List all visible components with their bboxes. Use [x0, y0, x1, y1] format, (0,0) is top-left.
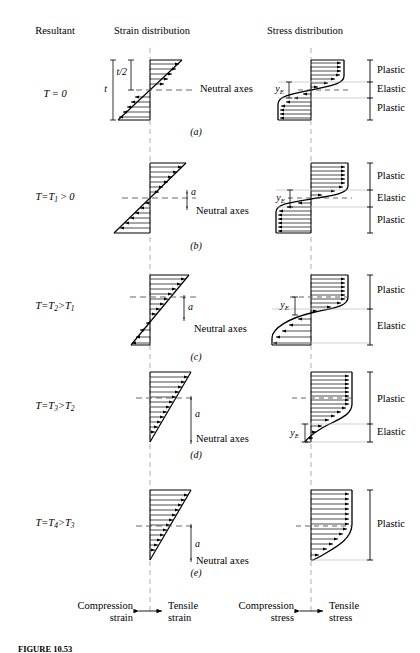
dimension-yE-label-d: yE: [289, 427, 299, 439]
dimension-yE-b: yE: [275, 190, 293, 207]
band-label-plastic-b-bottom: Plastic: [377, 214, 405, 225]
row-c: T=T2>T1 a Neutral axes: [35, 275, 406, 363]
legend-compression-strain-line1: Compression: [78, 600, 134, 611]
resultant-label-b: T=T1 > 0: [35, 191, 75, 203]
neutral-axes-label-e: Neutral axes: [196, 555, 249, 566]
band-label-elastic-b: Elastic: [377, 192, 406, 203]
dimension-yE-d: yE: [289, 424, 308, 442]
resultant-label-c: T=T2>T1: [35, 300, 74, 312]
band-brackets-c: [367, 275, 373, 345]
strain-diagram-e: [150, 490, 191, 560]
neutral-axes-label-d: Neutral axes: [196, 433, 249, 444]
band-label-plastic-d: Plastic: [377, 393, 405, 404]
legend-compression-strain-line2: strain: [110, 612, 134, 623]
legend-tensile-stress-line1: Tensile: [329, 600, 360, 611]
dimension-a-label-d: a: [195, 408, 200, 419]
strain-diagram-d: [150, 372, 191, 442]
dimension-a-label-e: a: [195, 538, 200, 549]
band-label-plastic-a-top: Plastic: [377, 64, 405, 75]
resultant-label-d: T=T3>T2: [35, 400, 74, 412]
legend-tensile-strain-line2: strain: [168, 612, 192, 623]
dimension-yE-a: yE: [274, 82, 292, 98]
row-d: T=T3>T2 a Neutral axes: [35, 372, 406, 461]
band-brackets-a: [367, 60, 373, 120]
dimension-t-half-label: t/2: [116, 66, 127, 77]
legend-compression-stress-line2: stress: [271, 612, 294, 623]
neutral-axes-label-b: Neutral axes: [196, 205, 249, 216]
dimension-yE-label-a: yE: [274, 83, 284, 95]
dimension-yE-label-c: yE: [279, 299, 289, 311]
band-label-plastic-e: Plastic: [377, 518, 405, 529]
column-header-stress: Stress distribution: [267, 25, 344, 36]
neutral-axes-label-a: Neutral axes: [200, 83, 253, 94]
figure-caption: FIGURE 10.53: [18, 644, 72, 653]
sub-caption-c: (c): [190, 351, 202, 363]
row-e: T=T4>T3 a Neutral axes: [35, 490, 405, 579]
figure-10-53: Resultant Strain distribution Stress dis…: [0, 0, 420, 653]
row-a: T = 0 t t/2: [43, 60, 406, 138]
legend: Compression strain Tensile strain Compre…: [78, 600, 360, 623]
sub-caption-d: (d): [190, 449, 202, 461]
column-header-resultant: Resultant: [35, 25, 75, 36]
sub-caption-b: (b): [190, 240, 202, 252]
stress-diagram-e: [311, 490, 352, 560]
dimension-a-b: a: [187, 186, 196, 208]
column-header-strain: Strain distribution: [114, 25, 191, 36]
resultant-label-a: T = 0: [43, 88, 67, 99]
band-label-elastic-d: Elastic: [377, 426, 406, 437]
band-label-elastic-a: Elastic: [377, 83, 406, 94]
sub-caption-e: (e): [190, 567, 202, 579]
sub-caption-a: (a): [190, 126, 202, 138]
legend-tensile-strain-line1: Tensile: [168, 600, 199, 611]
neutral-axes-label-c: Neutral axes: [194, 323, 247, 334]
band-brackets-e: [367, 490, 373, 560]
dimension-t-half: t/2: [116, 60, 134, 90]
legend-compression-stress-line1: Compression: [239, 600, 295, 611]
dimension-a-label-c: a: [188, 301, 193, 312]
stress-diagram-d: [305, 372, 352, 442]
band-brackets-b: [367, 163, 373, 233]
dimension-a-label-b: a: [191, 186, 196, 197]
band-label-plastic-c: Plastic: [377, 284, 405, 295]
legend-tensile-stress-line2: stress: [329, 612, 352, 623]
band-label-plastic-a-bottom: Plastic: [377, 102, 405, 113]
dimension-yE-c: yE: [279, 297, 298, 315]
resultant-label-e: T=T4>T3: [35, 517, 74, 529]
row-b: T=T1 > 0 a Neutral axes: [35, 163, 405, 252]
dimension-t: t: [104, 60, 116, 120]
dimension-t-label: t: [104, 83, 107, 94]
band-label-plastic-b-top: Plastic: [377, 170, 405, 181]
band-label-elastic-c: Elastic: [377, 320, 406, 331]
strain-diagram-c: [131, 275, 189, 345]
band-brackets-d: [367, 372, 373, 442]
dimension-a-c: a: [184, 297, 193, 319]
dimension-yE-label-b: yE: [275, 192, 285, 204]
